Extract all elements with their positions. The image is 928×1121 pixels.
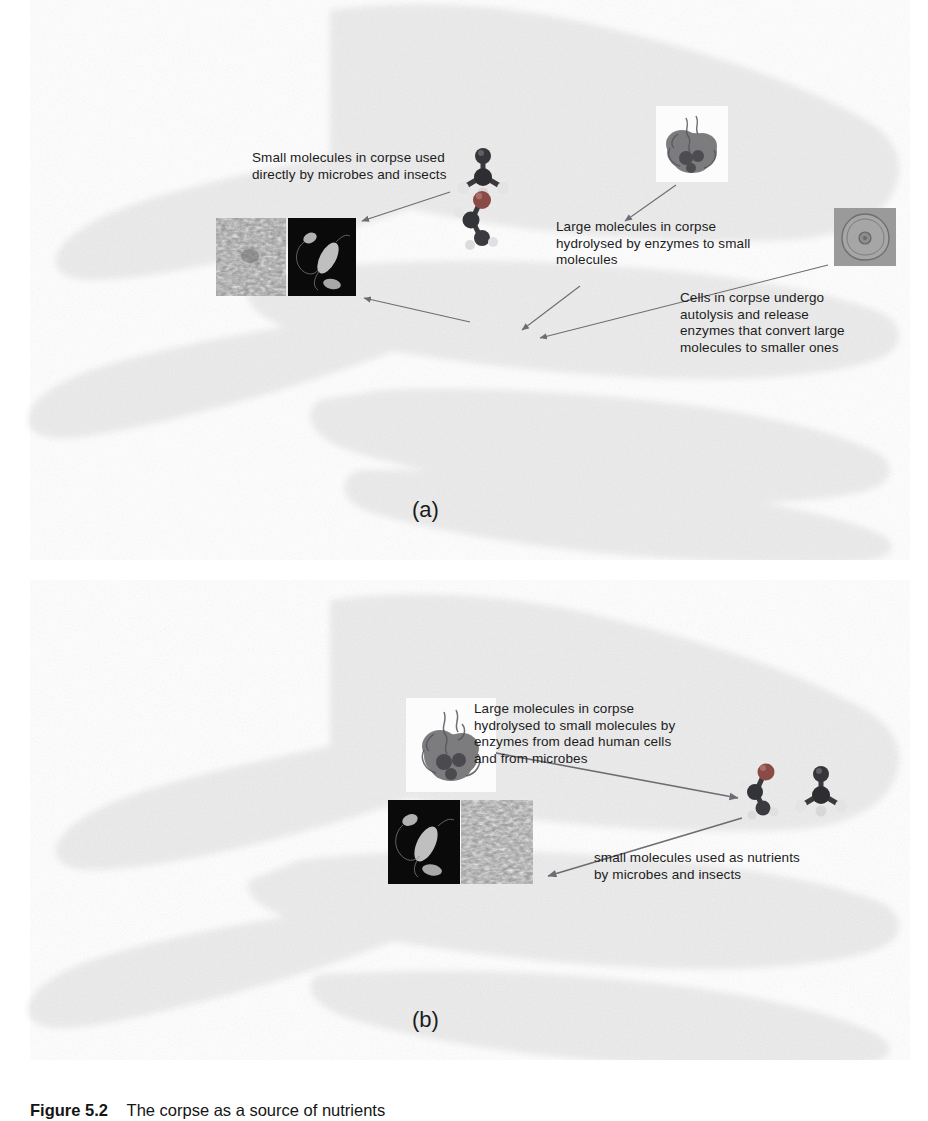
small-molecule-model-right-b — [790, 760, 852, 818]
human-cell-micrograph — [834, 208, 896, 266]
insect-sem-micrograph-b — [461, 800, 533, 884]
panel-a: Small molecules in corpse used directly … — [0, 0, 928, 560]
arrow-molecules-to-micrographs — [364, 298, 470, 322]
panel-b-letter: (b) — [412, 1007, 439, 1033]
human-body-silhouette — [0, 0, 928, 560]
label-small-molecules-nutrients: small molecules used as nutrients by mic… — [594, 850, 864, 883]
protein-macromolecule-model — [656, 106, 728, 182]
figure-caption: Figure 5.2 The corpse as a source of nut… — [30, 1100, 910, 1121]
small-molecule-model-left-b — [732, 758, 790, 820]
figure-caption-label: Figure 5.2 — [30, 1101, 108, 1119]
bacteria-micrograph — [288, 218, 356, 296]
arrow-small-molecules-to-microbes — [362, 192, 450, 221]
arrow-large-to-small-molecules — [522, 286, 580, 330]
small-molecule-model-bottom — [446, 186, 510, 250]
figure-caption-text: The corpse as a source of nutrients — [127, 1101, 386, 1119]
panel-b: Large molecules in corpse hydrolysed to … — [0, 560, 928, 1060]
panel-a-letter: (a) — [412, 497, 439, 523]
insect-sem-micrograph — [216, 218, 286, 296]
label-small-molecules-direct: Small molecules in corpse used directly … — [252, 150, 492, 183]
arrow-protein-to-large-molecules — [625, 185, 676, 221]
bacteria-micrograph-b — [388, 800, 460, 884]
panel-a-arrows — [0, 0, 928, 560]
label-large-molecules-hydrolysed: Large molecules in corpse hydrolysed by … — [556, 219, 786, 269]
label-large-molecules-hydrolysed-b: Large molecules in corpse hydrolysed to … — [474, 701, 744, 767]
label-cells-autolysis: Cells in corpse undergo autolysis and re… — [680, 290, 910, 356]
